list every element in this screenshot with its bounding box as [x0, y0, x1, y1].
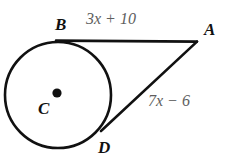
- point-label-d: D: [98, 139, 110, 156]
- tangent-segment-BA: [56, 41, 197, 42]
- segment-measure-da-text: 7x − 6: [148, 92, 190, 109]
- segment-measure-ba-text: 3x + 10: [86, 10, 136, 27]
- tangent-segment-DA: [101, 42, 197, 131]
- segment-measure-da: 7x − 6: [148, 93, 190, 109]
- geometry-figure: B A C D 3x + 10 7x − 6: [0, 0, 233, 167]
- point-label-c: C: [38, 100, 49, 117]
- segment-measure-ba: 3x + 10: [86, 11, 136, 27]
- center-point-dot: [52, 88, 61, 97]
- point-label-a: A: [204, 21, 215, 38]
- point-label-b: B: [55, 16, 66, 33]
